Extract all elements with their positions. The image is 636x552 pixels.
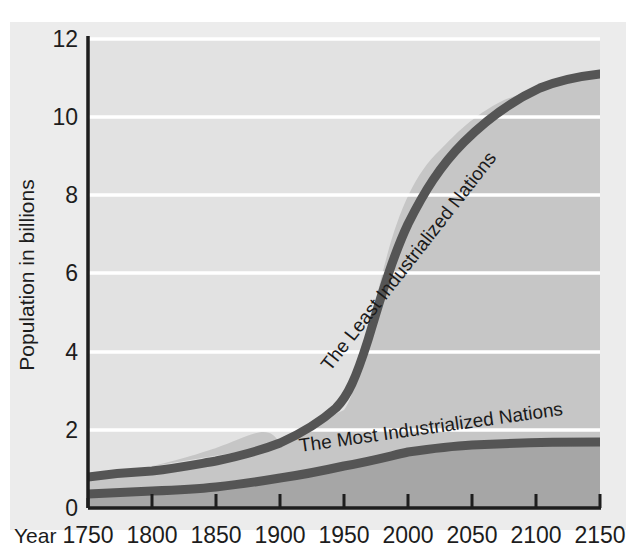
- ytick-label-2: 2: [65, 417, 78, 443]
- xtick-label-2050: 2050: [446, 522, 497, 548]
- xtick-label-2000: 2000: [382, 522, 433, 548]
- xtick-label-1950: 1950: [318, 522, 369, 548]
- xtick-label-1900: 1900: [254, 522, 305, 548]
- ytick-label-10: 10: [52, 104, 78, 130]
- ytick-label-12: 12: [52, 26, 78, 52]
- xtick-label-2100: 2100: [510, 522, 561, 548]
- x-axis-title: Year: [14, 524, 56, 547]
- y-axis-title: Population in billions: [15, 179, 38, 370]
- xtick-label-1850: 1850: [190, 522, 241, 548]
- ytick-label-4: 4: [65, 339, 78, 365]
- ytick-label-6: 6: [65, 260, 78, 286]
- ytick-label-8: 8: [65, 182, 78, 208]
- xtick-label-1750: 1750: [62, 522, 113, 548]
- xtick-label-2150: 2150: [574, 522, 625, 548]
- figure-root: The Least Industrialized Nations The Mos…: [0, 0, 636, 552]
- population-growth-area-chart: The Least Industrialized Nations The Mos…: [0, 0, 636, 552]
- xtick-label-1800: 1800: [126, 522, 177, 548]
- ytick-label-0: 0: [65, 495, 78, 521]
